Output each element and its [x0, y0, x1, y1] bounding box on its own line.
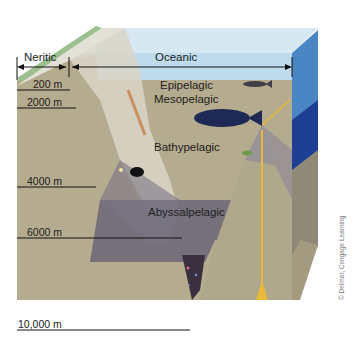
anglerfish-icon [130, 167, 144, 177]
depth-200-label: 200 m [33, 79, 62, 90]
abyssalpelagic-label: Abyssalpelagic [148, 207, 225, 219]
oceanic-label: Oceanic [155, 52, 197, 64]
depth-2000-label: 2000 m [27, 97, 62, 108]
mesopelagic-label: Mesopelagic [154, 94, 219, 106]
copyright-credit: © Delmar, Cengage Learning [338, 216, 345, 300]
depth-4000-label: 4000 m [27, 176, 62, 187]
depth-10000-label: 10,000 m [18, 319, 62, 330]
neritic-label: Neritic [24, 52, 57, 64]
lure-light-icon [119, 168, 123, 172]
bathypelagic-label: Bathypelagic [154, 142, 220, 154]
dolphin-icon [243, 81, 267, 87]
epipelagic-label: Epipelagic [160, 80, 213, 92]
ocean-zones-diagram: Neritic Oceanic Epipelagic Mesopelagic B… [0, 0, 361, 358]
fish-icon [242, 151, 252, 156]
depth-6000-label: 6000 m [27, 227, 62, 238]
sperm-whale-icon [194, 109, 250, 127]
